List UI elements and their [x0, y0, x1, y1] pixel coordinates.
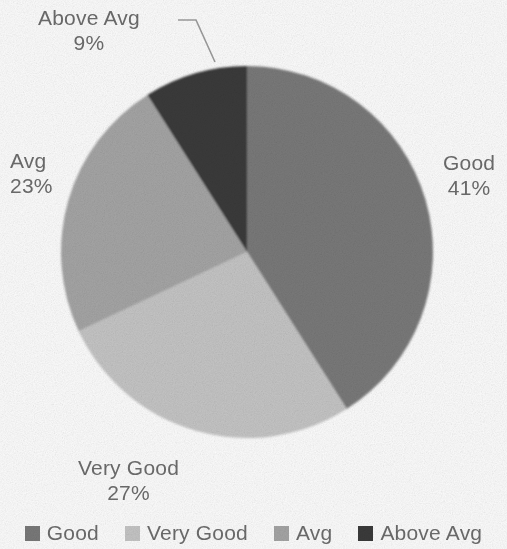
pie-chart-plot-area	[0, 0, 507, 549]
legend-item-good[interactable]: Good	[25, 521, 99, 545]
pie-chart-svg	[0, 0, 507, 549]
legend-item-very-good[interactable]: Very Good	[125, 521, 248, 545]
data-label-above-avg-name: Above Avg	[38, 5, 140, 30]
square-swatch-icon	[358, 526, 373, 541]
legend-item-above-avg[interactable]: Above Avg	[358, 521, 482, 545]
pie-slice-group	[61, 66, 433, 438]
data-label-above-avg: Above Avg 9%	[38, 5, 140, 55]
data-label-avg-name: Avg	[10, 148, 53, 173]
data-label-avg-value: 23%	[10, 173, 53, 198]
data-label-very-good-value: 27%	[78, 480, 179, 505]
legend-label: Good	[47, 521, 99, 545]
legend-label: Avg	[296, 521, 332, 545]
data-label-good: Good 41%	[443, 150, 495, 200]
data-label-good-value: 41%	[443, 175, 495, 200]
legend-label: Above Avg	[380, 521, 482, 545]
data-label-above-avg-value: 9%	[38, 30, 140, 55]
legend-item-avg[interactable]: Avg	[274, 521, 332, 545]
data-label-very-good-name: Very Good	[78, 455, 179, 480]
data-label-very-good: Very Good 27%	[78, 455, 179, 505]
data-label-avg: Avg 23%	[10, 148, 53, 198]
chart-legend: GoodVery GoodAvgAbove Avg	[0, 518, 507, 548]
pie-chart-figure: Above Avg 9% Avg 23% Good 41% Very Good …	[0, 0, 507, 549]
square-swatch-icon	[125, 526, 140, 541]
legend-label: Very Good	[147, 521, 248, 545]
square-swatch-icon	[274, 526, 289, 541]
data-label-good-name: Good	[443, 150, 495, 175]
above-avg-leader-line	[178, 20, 215, 62]
square-swatch-icon	[25, 526, 40, 541]
